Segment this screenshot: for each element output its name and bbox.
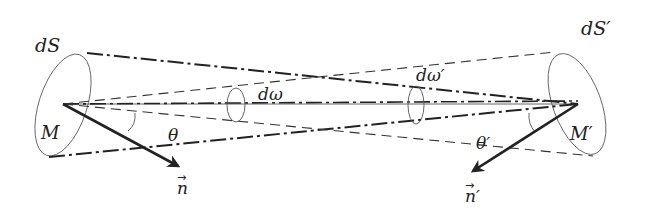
label-M: M [40,122,60,143]
solid-angle-d-omega [227,88,245,122]
theta-prime-arc [529,113,535,132]
cone-dSp-top [63,52,555,104]
label-theta-prime: θ′ [476,133,490,153]
solid-angle-d-omega-prime [408,86,424,124]
label-M-prime: M′ [569,123,593,144]
theta-arc [128,113,135,131]
etendue-diagram: dS dS′ M M′ dω dω′ θ θ′ n → n′ → [0,0,649,215]
cone-dS-top [87,53,578,104]
label-vector-n-prime: n′ → [465,179,480,206]
vector-arrow-icon: → [177,171,186,184]
label-vector-n: n → [177,171,188,198]
label-dS-prime: dS′ [581,17,611,39]
label-dS: dS [35,34,60,56]
label-theta: θ [168,125,178,145]
label-d-omega: dω [258,84,283,104]
label-d-omega-prime: dω′ [416,65,445,85]
vector-arrow-icon: → [465,179,474,192]
